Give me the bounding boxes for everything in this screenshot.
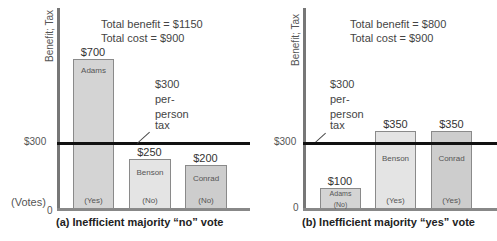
bar-vote-adams: (No) <box>321 201 360 208</box>
bar-vote-adams: (Yes) <box>74 196 113 205</box>
y-axis <box>57 8 60 210</box>
bar-value-conrad: $350 <box>431 118 472 130</box>
bar-value-conrad: $200 <box>185 152 226 164</box>
total-cost: Total cost = $900 <box>350 31 446 45</box>
bar-conrad: Conrad (No) <box>185 165 227 209</box>
bar-name-benson: Benson <box>376 154 415 163</box>
caption-b: (b) Inefficient majority “yes” vote <box>302 216 475 228</box>
tick-zero: 0 <box>47 205 53 216</box>
bar-name-conrad: Conrad <box>186 174 226 183</box>
totals: Total benefit = $1150 Total cost = $900 <box>101 17 203 45</box>
bar-vote-benson: (No) <box>130 196 170 205</box>
total-benefit: Total benefit = $1150 <box>101 17 203 31</box>
caption-a: (a) Inefficient majority “no” vote <box>56 216 223 228</box>
bar-value-benson: $250 <box>129 146 170 158</box>
bar-value-benson: $350 <box>375 118 416 130</box>
bar-vote-benson: (Yes) <box>376 196 415 205</box>
y-axis <box>303 8 306 210</box>
tick-300: $300 <box>274 136 296 147</box>
bar-value-adams: $100 <box>320 175 360 187</box>
totals: Total benefit = $800 Total cost = $900 <box>350 17 446 45</box>
tick-zero: 0 <box>293 202 299 213</box>
tax-annotation: $300 per- person tax <box>330 77 364 133</box>
bar-value-adams: $700 <box>73 46 113 58</box>
y-axis-label: Benefit; Tax <box>44 10 55 62</box>
bar-adams: Adams (Yes) <box>73 59 114 209</box>
total-benefit: Total benefit = $800 <box>350 17 446 31</box>
tax-annotation: $300 per- person tax <box>155 77 189 133</box>
bar-name-adams: Adams <box>74 66 113 75</box>
bar-name-benson: Benson <box>130 168 170 177</box>
votes-label: (Votes) <box>11 196 46 208</box>
panel-b: Benefit; Tax Total benefit = $800 Total … <box>250 0 497 241</box>
bar-vote-conrad: (Yes) <box>432 196 471 205</box>
tax-line <box>303 142 497 145</box>
bar-vote-conrad: (No) <box>186 196 226 205</box>
bar-benson: Benson (No) <box>129 159 171 209</box>
tax-line <box>57 142 250 145</box>
total-cost: Total cost = $900 <box>101 31 203 45</box>
y-axis-label: Benefit; Tax <box>290 14 301 66</box>
tick-300: $300 <box>24 136 46 147</box>
bar-name-conrad: Conrad <box>432 154 471 163</box>
panel-a: Benefit; Tax Total benefit = $1150 Total… <box>0 0 250 241</box>
bar-adams: Adams (No) <box>320 188 361 209</box>
bar-name-adams: Adams <box>321 190 360 197</box>
